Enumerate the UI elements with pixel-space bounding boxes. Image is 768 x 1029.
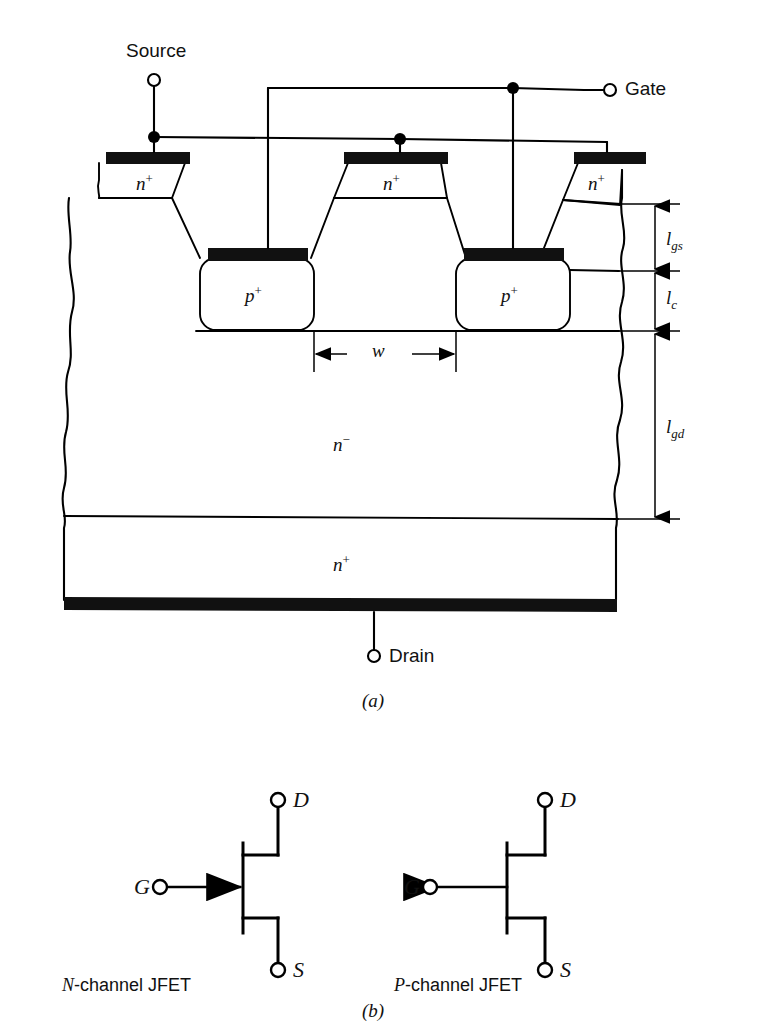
region-label-pplus-right: p+ (501, 283, 518, 307)
source-metal-contact-right (574, 152, 646, 164)
dimension-label-w: w (372, 340, 385, 362)
n-drain-label: D (293, 787, 309, 813)
caption-part-a: (a) (362, 690, 384, 712)
p-drain-label: D (560, 787, 576, 813)
gate-metal-contact-right (464, 248, 564, 261)
gate-terminal-label: Gate (625, 78, 666, 100)
p-gate-terminal-circle[interactable] (423, 880, 437, 894)
n-source-label: S (293, 957, 304, 983)
dimension-label-lgd: lgd (666, 416, 684, 442)
source-metal-contact-middle (344, 152, 448, 164)
gate-terminal-circle[interactable] (604, 84, 616, 96)
gate-metal-contact-left (208, 248, 308, 261)
jfet-figure: Source Gate Drain n+ n+ n+ p+ p+ n− n+ w… (0, 0, 768, 1029)
p-source-label: S (560, 957, 571, 983)
n-gate-terminal-circle[interactable] (153, 880, 167, 894)
p-gate-label: G (404, 874, 420, 900)
source-bus-wire (154, 137, 607, 142)
region-label-nplus-mesa-left: n+ (136, 171, 153, 195)
source-terminal-circle[interactable] (148, 74, 160, 86)
n-channel-jfet-name: N-channel JFET (62, 975, 191, 996)
region-label-nplus-mesa-right: n+ (588, 171, 605, 195)
source-junction-dot-left (148, 131, 160, 143)
p-drain-terminal-circle[interactable] (538, 793, 552, 807)
region-label-pplus-left: p+ (245, 283, 262, 307)
source-terminal-label: Source (126, 40, 186, 62)
jfet-cross-section-drawing (0, 0, 768, 760)
source-junction-dot-middle (394, 133, 406, 145)
n-source-terminal-circle[interactable] (271, 963, 285, 977)
device-body-outline (62, 170, 624, 600)
source-metal-contact-left (106, 152, 190, 164)
drain-terminal-label: Drain (389, 645, 434, 667)
p-channel-jfet-name: P-channel JFET (394, 975, 522, 996)
drain-terminal-circle[interactable] (368, 650, 380, 662)
gate-junction-dot (507, 82, 519, 94)
dimension-label-lgs: lgs (666, 228, 683, 254)
region-label-nplus-mesa-middle: n+ (383, 171, 400, 195)
n-drain-terminal-circle[interactable] (271, 793, 285, 807)
p-source-terminal-circle[interactable] (538, 963, 552, 977)
caption-part-b: (b) (362, 1000, 384, 1022)
region-label-nminus-drift: n− (333, 432, 350, 456)
gate-bus-wire (268, 88, 584, 90)
p-channel-jfet-symbol (437, 806, 545, 963)
n-channel-jfet-symbol (167, 806, 278, 963)
dimension-label-lc: lc (666, 287, 677, 313)
n-gate-label: G (134, 874, 150, 900)
drain-metal-contact (64, 597, 617, 612)
region-label-nplus-substrate: n+ (333, 552, 350, 576)
